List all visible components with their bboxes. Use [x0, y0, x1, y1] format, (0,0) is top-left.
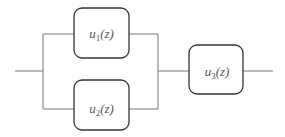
block-u2-label: u2(z): [89, 101, 114, 118]
block-diagram: u1(z) u2(z) u3(z): [0, 0, 285, 137]
block-u3: u3(z): [189, 45, 243, 94]
block-u2: u2(z): [74, 80, 129, 130]
block-u1-label: u1(z): [89, 26, 114, 43]
block-u1: u1(z): [74, 8, 129, 58]
block-u3-label: u3(z): [205, 64, 230, 81]
